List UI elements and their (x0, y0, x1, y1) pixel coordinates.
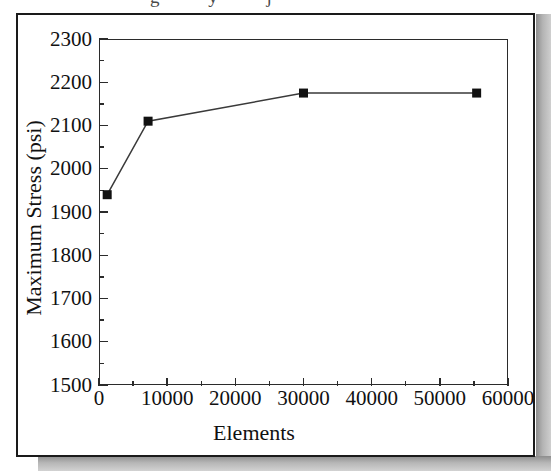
x-tick-major (439, 378, 440, 386)
y-tick-minor (99, 363, 104, 364)
y-tick-major (99, 211, 108, 212)
y-tick-label: 1600 (50, 331, 92, 352)
x-tick-minor (473, 381, 474, 386)
y-tick-minor (99, 319, 104, 320)
x-axis-title: Elements (0, 420, 508, 446)
y-tick-major (99, 298, 108, 299)
y-tick-minor (99, 190, 104, 191)
line-chart: 150016001700180019002000210022002300 010… (0, 0, 551, 471)
x-tick-minor (201, 381, 202, 386)
plot-area-frame (99, 39, 508, 385)
y-tick-label: 1700 (50, 288, 92, 309)
y-tick-label: 1800 (50, 245, 92, 266)
x-tick-minor (337, 381, 338, 386)
y-axis-title: Maximum Stress (psi) (21, 88, 47, 348)
x-tick-major (98, 378, 99, 386)
y-tick-label: 2000 (50, 158, 92, 179)
y-tick-major (99, 82, 108, 83)
y-tick-minor (99, 103, 104, 104)
x-tick-major (507, 378, 508, 386)
y-tick-label: 2200 (50, 72, 92, 93)
x-tick-major (303, 378, 304, 386)
y-tick-major (99, 125, 108, 126)
scanned-page: g y j 1500160017001800190020002100220023… (0, 0, 551, 471)
y-tick-label: 2100 (50, 115, 92, 136)
x-tick-minor (269, 381, 270, 386)
y-tick-major (99, 38, 108, 39)
y-tick-label: 1900 (50, 202, 92, 223)
x-tick-major (235, 378, 236, 386)
y-tick-major (99, 168, 108, 169)
x-tick-minor (405, 381, 406, 386)
x-tick-major (166, 378, 167, 386)
y-tick-label: 2300 (50, 29, 92, 50)
y-tick-minor (99, 146, 104, 147)
y-tick-minor (99, 276, 104, 277)
y-tick-minor (99, 60, 104, 61)
x-tick-major (371, 378, 372, 386)
y-tick-minor (99, 233, 104, 234)
x-tick-label: 60000 (448, 388, 551, 409)
y-tick-major (99, 341, 108, 342)
x-tick-minor (132, 381, 133, 386)
y-tick-major (99, 255, 108, 256)
